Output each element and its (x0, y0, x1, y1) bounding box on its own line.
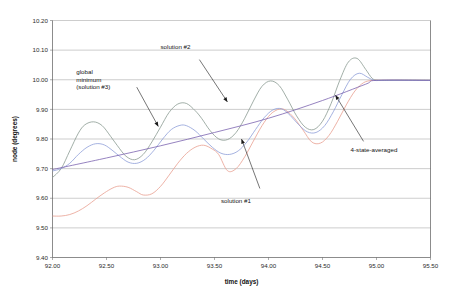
annotation-label: minimum (76, 76, 101, 83)
x-tick-label: 94.50 (315, 262, 331, 269)
y-tick-label: 9.70 (36, 165, 49, 172)
y-tick-label: 10.20 (33, 17, 49, 24)
x-tick-label: 93.00 (153, 262, 169, 269)
y-tick-label: 10.00 (33, 76, 49, 83)
annotation-label: (solution #3) (76, 83, 110, 90)
x-tick-label: 94.00 (261, 262, 277, 269)
y-tick-label: 9.90 (36, 106, 49, 113)
y-tick-label: 9.50 (36, 224, 49, 231)
node-vs-time-line-chart: 9.409.509.609.709.809.9010.0010.1010.20 … (0, 0, 449, 294)
y-axis-title: node (degrees) (11, 116, 19, 162)
x-tick-label: 92.00 (45, 262, 61, 269)
chart-container: 9.409.509.609.709.809.9010.0010.1010.20 … (0, 0, 449, 294)
x-tick-label: 92.50 (99, 262, 115, 269)
y-tick-label: 9.80 (36, 135, 49, 142)
y-tick-label: 9.40 (36, 254, 49, 261)
x-tick-label: 95.00 (369, 262, 385, 269)
y-tick-label: 9.60 (36, 194, 49, 201)
x-axis-title: time (days) (225, 278, 259, 286)
annotation-label: global (76, 68, 93, 75)
annotation-label: 4-state-averaged (351, 146, 398, 153)
annotation-label: solution #1 (221, 197, 251, 204)
x-tick-label: 93.50 (207, 262, 223, 269)
annotation-label: solution #2 (161, 43, 191, 50)
x-tick-label: 95.50 (423, 262, 439, 269)
y-tick-label: 10.10 (33, 46, 49, 53)
